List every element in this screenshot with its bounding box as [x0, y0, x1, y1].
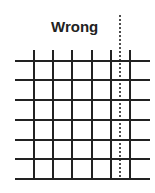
grid-diagram — [0, 0, 155, 193]
